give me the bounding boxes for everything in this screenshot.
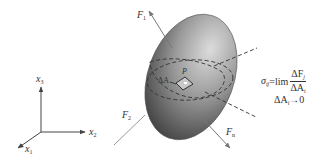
formula-denominator: ΔAi <box>290 82 305 94</box>
point-p-marker <box>184 82 187 84</box>
area-label: ΔA <box>158 77 169 85</box>
x2-label: x2 <box>89 127 96 138</box>
f2-label: F2 <box>122 110 131 121</box>
f1-label: F1 <box>137 10 146 21</box>
formula-lim: lim <box>275 77 288 87</box>
formula-limit-condition: ΔAi→0 <box>274 95 306 106</box>
fn-label: Fn <box>226 127 235 138</box>
formula-fraction: ΔFj ΔAi <box>290 69 306 94</box>
stress-formula: σij = lim ΔFj ΔAi ΔAi→0 <box>261 69 306 106</box>
formula-lhs: σij <box>261 76 269 87</box>
formula-numerator: ΔFj <box>290 69 306 82</box>
x1-label: x1 <box>25 144 32 155</box>
x3-label: x3 <box>36 74 43 85</box>
point-p-label: P <box>182 68 187 76</box>
coordinate-axes <box>18 87 85 148</box>
